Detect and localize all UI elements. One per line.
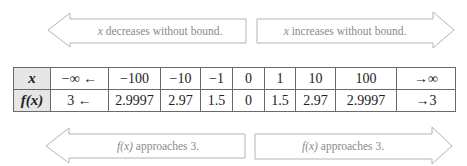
table-cell: 2.97 [296,90,336,112]
table-cell: −10 [161,68,201,90]
x-increases-label: x increases without bound. [284,25,407,37]
variable-fx: f(x) [302,140,318,152]
table-cell: 1 [265,68,296,90]
table-cell: 2.9997 [336,90,397,112]
label-text: decreases without bound. [103,25,222,37]
label-text: increases without bound. [289,25,407,37]
table-cell: 100 [336,68,397,90]
variable-fx: f(x) [117,140,133,152]
row-header-x: x [14,68,51,90]
table-cell: −100 [109,68,161,90]
label-text: approaches 3. [318,140,384,152]
values-table: x −∞ ← −100 −10 −1 0 1 10 100 →∞ f(x) 3 … [13,67,456,112]
table-cell: 0 [233,68,265,90]
table-cell: 1.5 [201,90,233,112]
table-cell: 2.9997 [109,90,161,112]
table-row-fx: f(x) 3 ← 2.9997 2.97 1.5 0 1.5 2.97 2.99… [14,90,456,112]
label-text: approaches 3. [133,140,199,152]
table-cell: →3 [397,90,456,112]
table-cell: 0 [233,90,265,112]
table-row-x: x −∞ ← −100 −10 −1 0 1 10 100 →∞ [14,68,456,90]
table-cell: −∞ ← [51,68,109,90]
row-header-fx: f(x) [14,90,51,112]
table-cell: 3 ← [51,90,109,112]
table-cell: 2.97 [161,90,201,112]
fx-approaches-right-label: f(x) approaches 3. [302,140,384,152]
table-cell: →∞ [397,68,456,90]
table-cell: 10 [296,68,336,90]
x-decreases-label: x decreases without bound. [98,25,223,37]
fx-approaches-left-label: f(x) approaches 3. [117,140,199,152]
table-cell: −1 [201,68,233,90]
table-cell: 1.5 [265,90,296,112]
